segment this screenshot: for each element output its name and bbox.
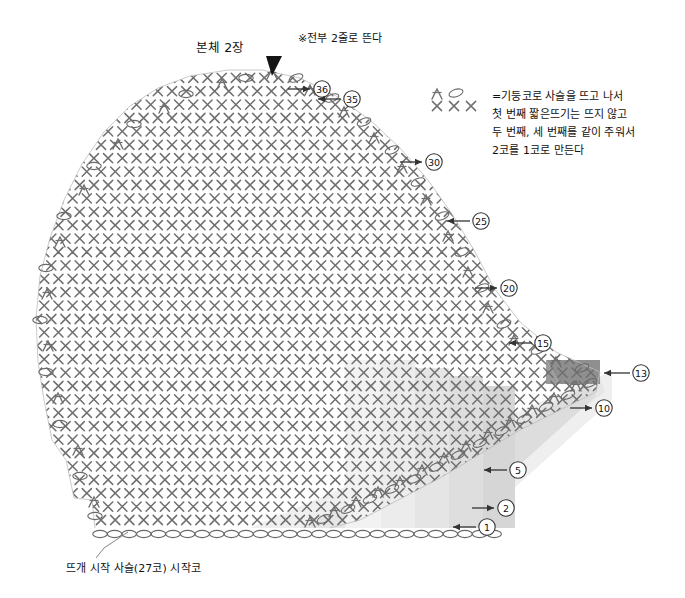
row-marker-label: 2	[503, 503, 509, 514]
legend-symbols	[432, 87, 476, 110]
row-marker-36: 36	[288, 81, 330, 97]
row-marker-label: 20	[503, 283, 515, 294]
foundation-chain-row	[93, 530, 502, 537]
row-marker-label: 10	[598, 403, 610, 414]
legend-line-3: 두 번째, 세 번째를 같이 주워서	[492, 124, 635, 142]
start-caption: 뜨개 시작 사슬(27코) 시작코	[66, 560, 201, 577]
page-title: 본체 2장	[196, 38, 244, 57]
legend-line-1: =기둥코로 사슬을 뜨고 나서	[492, 88, 635, 106]
row-marker-label: 36	[316, 84, 328, 95]
pattern-note: ※전부 2줄로 뜬다	[298, 30, 382, 47]
row-marker-label: 25	[475, 216, 487, 227]
row-marker-label: 13	[635, 368, 647, 379]
row-marker-label: 30	[428, 157, 440, 168]
legend-line-4: 2코를 1코로 만든다	[492, 142, 635, 160]
row-marker-label: 1	[484, 522, 490, 533]
row-marker-label: 35	[346, 94, 358, 105]
legend-line-2: 첫 번째 짧은뜨기는 뜨지 않고	[492, 106, 635, 124]
legend-text: =기둥코로 사슬을 뜨고 나서 첫 번째 짧은뜨기는 뜨지 않고 두 번째, 세…	[492, 88, 635, 160]
row-marker-30: 30	[400, 154, 442, 170]
row-marker-label: 15	[537, 338, 549, 349]
row-marker-label: 5	[515, 465, 521, 476]
row-marker-25: 25	[447, 213, 489, 229]
